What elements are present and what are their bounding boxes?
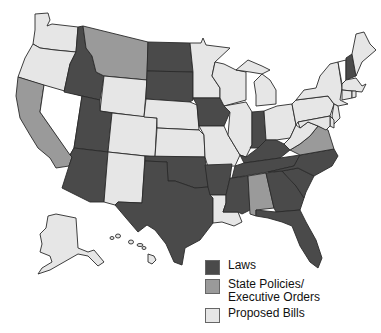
policies-swatch: [205, 279, 220, 294]
legend-label: Laws: [228, 259, 256, 272]
legend-label: Proposed Bills: [228, 307, 305, 320]
state-CT[interactable]: [342, 90, 352, 100]
us-map: [0, 0, 381, 333]
state-ND[interactable]: [147, 42, 193, 72]
state-KS[interactable]: [155, 128, 205, 157]
legend-item-proposed: Proposed Bills: [205, 307, 320, 323]
state-HI[interactable]: [110, 234, 156, 264]
state-MA[interactable]: [342, 78, 366, 92]
legend-item-policies: State Policies/ Executive Orders: [205, 278, 320, 304]
legend-label: State Policies/ Executive Orders: [228, 278, 320, 304]
state-CO[interactable]: [108, 113, 157, 157]
state-WY[interactable]: [100, 76, 147, 117]
state-ME[interactable]: [352, 32, 376, 76]
laws-swatch: [205, 260, 220, 275]
state-RI[interactable]: [352, 91, 356, 98]
state-SD[interactable]: [146, 71, 193, 102]
legend: Laws State Policies/ Executive Orders Pr…: [205, 259, 320, 326]
state-NM[interactable]: [104, 152, 145, 205]
proposed-swatch: [205, 308, 220, 323]
state-AK[interactable]: [38, 214, 104, 274]
legend-item-laws: Laws: [205, 259, 320, 275]
state-WA[interactable]: [33, 13, 78, 52]
